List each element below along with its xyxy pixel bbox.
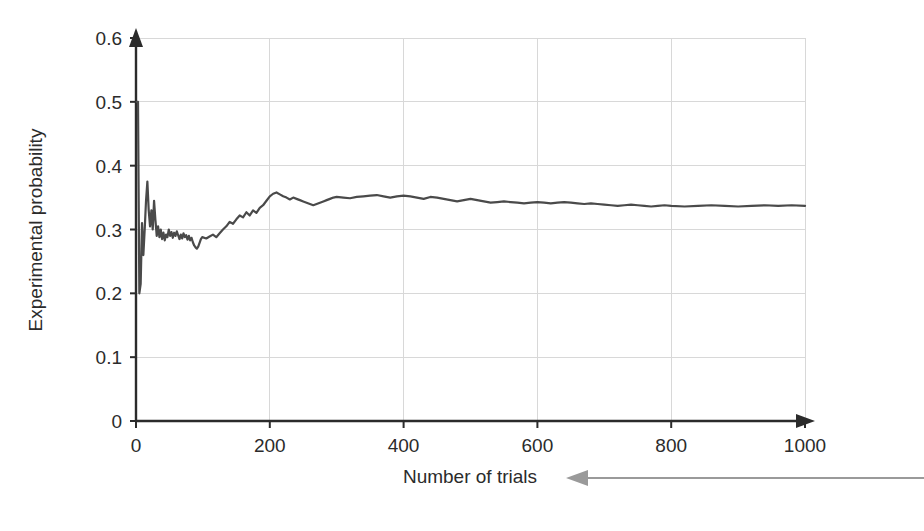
x-tick-label: 600 [522,435,554,456]
y-tick-label: 0.3 [96,220,122,241]
data-series [137,102,805,293]
leader-arrowhead [566,470,588,486]
y-tick-label: 0.4 [96,156,123,177]
chart-figure: 02004006008001000 00.10.20.30.40.50.6 Ex… [0,0,924,531]
x-tick-label: 1000 [784,435,826,456]
x-tick-label: 400 [388,435,420,456]
y-axis-title: Experimental probability [25,128,46,331]
x-axis-tick-labels: 02004006008001000 [131,435,826,456]
y-tick-label: 0.1 [96,347,122,368]
y-tick-label: 0.5 [96,92,122,113]
x-tick-label: 200 [254,435,286,456]
gridlines [136,38,805,421]
y-tick-label: 0 [111,411,122,432]
tick-marks [130,38,805,428]
series-line [137,102,805,293]
leader-arrow-annotation [566,470,924,486]
x-axis-title: Number of trials [403,466,537,487]
x-tick-label: 800 [655,435,687,456]
y-tick-label: 0.2 [96,283,122,304]
experimental-probability-line-chart: 02004006008001000 00.10.20.30.40.50.6 Ex… [0,0,924,531]
axes [129,28,815,428]
x-tick-label: 0 [131,435,142,456]
y-axis-tick-labels: 00.10.20.30.40.50.6 [96,28,123,432]
y-tick-label: 0.6 [96,28,122,49]
